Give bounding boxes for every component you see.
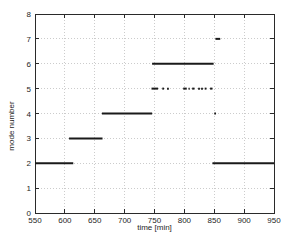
y-tick-label: 0 [27, 209, 32, 218]
mode-number-vs-time-chart: 550600650700750800850900950012345678 tim… [0, 0, 298, 242]
y-tick-label: 2 [27, 159, 32, 168]
y-tick-label: 4 [27, 110, 32, 119]
y-tick-label: 3 [27, 134, 32, 143]
y-axis-label: mode number [8, 101, 16, 150]
x-axis-label: time [min] [35, 224, 274, 232]
y-tick-label: 7 [27, 35, 32, 44]
y-tick-label: 1 [27, 184, 32, 193]
y-tick-label: 6 [27, 60, 32, 69]
plot-canvas: 550600650700750800850900950012345678 [0, 0, 298, 242]
y-tick-label: 8 [27, 10, 32, 19]
y-tick-label: 5 [27, 85, 32, 94]
